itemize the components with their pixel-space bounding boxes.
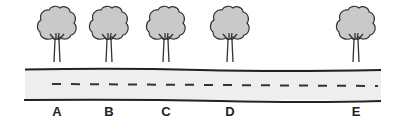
tree-label-e: E xyxy=(346,104,366,119)
tree-c xyxy=(146,6,185,62)
tree-a xyxy=(37,6,76,62)
tree-e xyxy=(336,6,375,62)
tree-b xyxy=(89,6,128,62)
tree-label-a: A xyxy=(47,104,67,119)
tree-label-b: B xyxy=(99,104,119,119)
tree-d xyxy=(210,6,249,62)
road xyxy=(24,69,381,102)
tree-label-c: C xyxy=(156,104,176,119)
tree-label-d: D xyxy=(220,104,240,119)
trees xyxy=(37,6,375,62)
